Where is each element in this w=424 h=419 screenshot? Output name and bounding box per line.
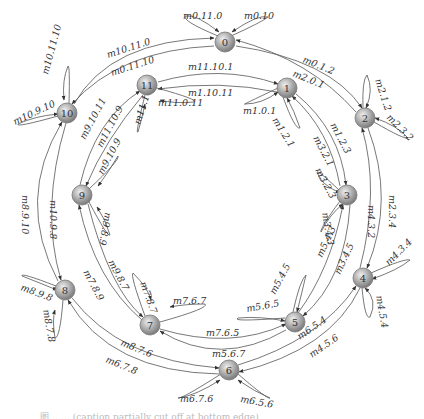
- node-label: 11: [141, 80, 154, 91]
- loop-arrow: [362, 288, 373, 317]
- edge-2-to-4: m2.3.4: [367, 128, 398, 268]
- loop-label: m9.8.9: [97, 212, 114, 247]
- self-loop-node-2: m2.1.2: [363, 75, 394, 112]
- loop-arrow: [244, 88, 278, 104]
- loop-label: m3.2.3: [313, 166, 338, 200]
- loop-label: m2.1.2: [373, 77, 394, 112]
- state-diagram: m0.1.2m2.0.1m0.11.10m10.11.0m11.10.1m1.1…: [0, 0, 424, 419]
- node-label: 10: [61, 108, 74, 119]
- edge-label: m8.7.6: [119, 337, 154, 360]
- self-loop-node-6: m6.5.6: [238, 374, 274, 410]
- node-label: 0: [222, 37, 228, 48]
- self-loop-node-5: m5.6.5: [237, 297, 285, 321]
- node-label: 9: [79, 190, 85, 201]
- edge-11-to-1: m11.10.1: [158, 61, 278, 84]
- self-loop-node-4: m4.5.4: [362, 288, 391, 329]
- edge-label: m6.7.8: [104, 354, 139, 377]
- loop-arrow: [160, 304, 205, 322]
- node-5: 5: [285, 312, 305, 332]
- self-loop-node-9: m9.8.9: [89, 202, 114, 246]
- edge-10-to-8: m10.9.8: [48, 123, 66, 280]
- loop-label: m8.9.8: [19, 282, 54, 304]
- node-label: 3: [344, 190, 350, 201]
- node-1: 1: [277, 78, 297, 98]
- node-11: 11: [137, 75, 157, 95]
- edge-label: m4.3.2: [366, 205, 377, 238]
- node-0: 0: [215, 32, 235, 52]
- loop-label: m2.3.2: [385, 112, 416, 143]
- node-label: 6: [226, 365, 232, 376]
- loop-arrow: [237, 317, 285, 321]
- self-loop-node-6: m6.7.6: [178, 374, 221, 404]
- node-2: 2: [355, 108, 375, 128]
- edge-arrow: [360, 128, 371, 268]
- node-8: 8: [55, 280, 75, 300]
- loop-label: m8.7.8: [41, 308, 58, 343]
- self-loop-node-7: m7.8.7: [133, 273, 161, 316]
- loop-arrow: [64, 66, 70, 103]
- loop-label: m11.0.11: [158, 97, 203, 108]
- self-loop-node-7: m7.6.7: [160, 295, 207, 322]
- figure-caption: 图 …… (caption partially cut off at botto…: [40, 410, 390, 419]
- node-10: 10: [57, 103, 77, 123]
- self-loop-node-8: m8.7.8: [41, 300, 63, 343]
- node-label: 4: [360, 273, 366, 284]
- loop-label: m7.8.7: [138, 280, 160, 316]
- node-label: 1: [284, 83, 290, 94]
- self-loop-node-0: m0.10: [231, 10, 274, 36]
- diagram-canvas: m0.1.2m2.0.1m0.11.10m10.11.0m11.10.1m1.1…: [0, 0, 424, 419]
- edge-label: m7.8.9: [81, 268, 106, 302]
- edge-label: m2.3.4: [387, 195, 398, 228]
- loop-label: m6.5.6: [240, 393, 275, 410]
- self-loop-node-3: m3.2.3: [313, 166, 340, 200]
- loop-label: m5.4.5: [267, 261, 292, 295]
- node-3: 3: [337, 185, 357, 205]
- loop-label: m4.5.4: [374, 294, 391, 329]
- edge-label: m4.5.6: [307, 332, 340, 360]
- loop-label: m4.3.4: [383, 236, 414, 267]
- self-loop-node-10: m10.11.10: [39, 23, 69, 103]
- self-loop-node-0: m0.11.0: [183, 10, 222, 36]
- loop-label: m7.6.7: [173, 295, 207, 306]
- edge-7-to-5: m7.6.5: [160, 324, 286, 338]
- node-6: 6: [219, 360, 239, 380]
- edge-label: m3.4.5: [332, 241, 356, 276]
- loop-label: m10.11.10: [39, 23, 63, 75]
- node-label: 5: [292, 317, 298, 328]
- loop-label: m0.10: [244, 10, 274, 21]
- self-loop-node-4: m4.3.4: [371, 236, 414, 279]
- edge-arrow: [367, 128, 381, 268]
- edge-label: m11.10.1: [188, 61, 233, 72]
- edge-label: m5.6.7: [212, 348, 246, 359]
- loop-label: m5.6.5: [245, 297, 280, 314]
- edge-arrow: [158, 73, 278, 84]
- loop-label: m0.11.0: [183, 10, 222, 21]
- edge-label: m8.9.10: [20, 195, 31, 234]
- edge-label: m10.9.8: [48, 200, 59, 239]
- node-label: 7: [147, 320, 153, 331]
- node-4: 4: [353, 268, 373, 288]
- edge-2-to-0: m2.0.1: [236, 40, 356, 112]
- node-label: 8: [62, 285, 68, 296]
- loop-label: m1.0.1: [243, 105, 276, 116]
- loop-arrow: [363, 75, 370, 108]
- self-loop-node-8: m8.9.8: [19, 275, 57, 303]
- edge-arrow: [80, 91, 140, 185]
- self-loop-node-10: m10.9.10: [11, 98, 58, 127]
- node-9: 9: [72, 185, 92, 205]
- node-7: 7: [140, 315, 160, 335]
- node-label: 2: [362, 113, 368, 124]
- loop-label: m6.7.6: [180, 393, 213, 404]
- self-loop-node-1: m1.0.1: [243, 88, 278, 116]
- self-loop-node-2: m2.3.2: [374, 112, 416, 143]
- edge-label: m7.6.5: [206, 327, 239, 338]
- loop-arrow: [293, 275, 306, 312]
